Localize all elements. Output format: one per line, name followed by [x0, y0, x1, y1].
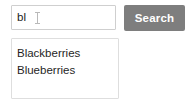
search-row: bl Search [11, 5, 185, 32]
list-item[interactable]: Blueberries [12, 63, 118, 78]
search-button[interactable]: Search [124, 5, 185, 31]
autocomplete-search-widget: bl Search Blackberries Blueberries [0, 0, 191, 112]
list-item[interactable]: Blackberries [12, 46, 118, 61]
suggestions-dropdown: Blackberries Blueberries [11, 38, 119, 99]
search-input[interactable] [11, 5, 116, 30]
